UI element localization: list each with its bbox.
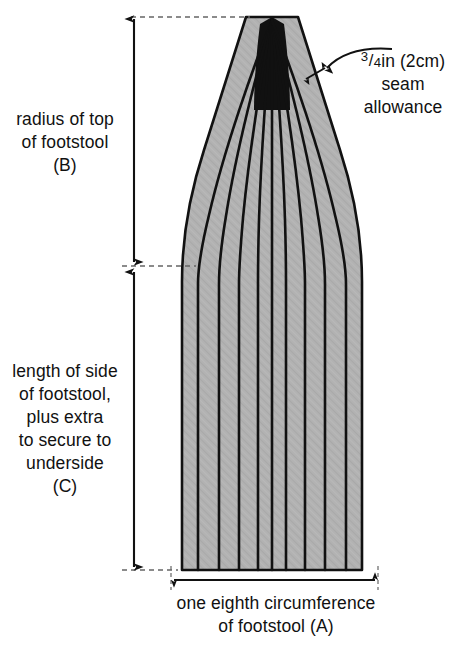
label-seam-allowance-measure: 3/4in (2cm) [344,48,462,73]
label-radius-of-top-line1: radius of top [2,108,128,131]
label-radius-of-top-line2: of footstool [2,131,128,154]
label-length-of-side-line3: plus extra [2,406,128,429]
label-seam-allowance-line2: seam [344,73,462,96]
label-length-of-side-line2: of footstool, [2,383,128,406]
fraction-denominator: 4 [374,55,381,70]
label-length-of-side-line5: underside [2,452,128,475]
fraction-three-quarters: 3/4 [361,48,381,73]
pattern-shape-group [182,17,362,570]
label-radius-of-top: radius of top of footstool (B) [2,108,128,177]
label-seam-allowance-line3: allowance [344,96,462,119]
label-one-eighth-circumference-line1: one eighth circumference [128,592,424,615]
label-one-eighth-circumference: one eighth circumference of footstool (A… [128,592,424,638]
label-seam-allowance: 3/4in (2cm) seam allowance [344,48,462,119]
label-radius-of-top-line3: (B) [2,154,128,177]
label-seam-allowance-unit: in (2cm) [381,51,445,71]
label-length-of-side: length of side of footstool, plus extra … [2,360,128,499]
label-length-of-side-line4: to secure to [2,429,128,452]
figure-root: radius of top of footstool (B) length of… [0,0,463,645]
label-length-of-side-line1: length of side [2,360,128,383]
label-length-of-side-line6: (C) [2,475,128,498]
label-one-eighth-circumference-line2: of footstool (A) [128,615,424,638]
